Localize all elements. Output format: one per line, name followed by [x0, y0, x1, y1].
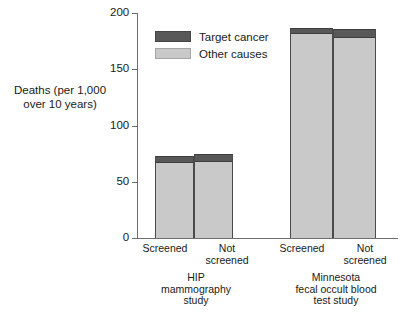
bar-minnesota-not-screened[interactable] — [333, 29, 376, 238]
x-label-hip-screened: Screened — [131, 243, 199, 255]
legend-item-other-causes[interactable]: Other causes — [155, 46, 269, 61]
x-label-minnesota-not-screened: Not screened — [334, 243, 396, 266]
y-tick-label-0: 0 — [69, 232, 129, 243]
bar-segment-other-causes — [156, 163, 193, 238]
bar-minnesota-screened[interactable] — [290, 28, 333, 238]
x-label-minnesota-screened: Screened — [268, 243, 336, 255]
legend-swatch-other-causes-icon — [155, 48, 191, 59]
y-tick-label-200: 200 — [69, 7, 129, 18]
y-tick-label-100: 100 — [69, 120, 129, 131]
y-axis-title: Deaths (per 1,000 over 10 years) — [5, 83, 115, 111]
legend-label-target-cancer: Target cancer — [199, 31, 269, 43]
legend-swatch-target-cancer-icon — [155, 31, 191, 42]
bar-segment-target-cancer — [195, 154, 232, 162]
bar-hip-screened[interactable] — [155, 156, 194, 238]
y-axis-title-line-2: over 10 years) — [5, 97, 115, 111]
bar-hip-not-screened[interactable] — [194, 154, 233, 238]
bar-segment-other-causes — [291, 34, 332, 238]
bar-segment-other-causes — [334, 38, 375, 238]
x-label-hip-not-screened: Not screened — [196, 243, 258, 266]
bar-segment-target-cancer — [156, 156, 193, 163]
bar-segment-target-cancer — [334, 29, 375, 38]
bar-segment-other-causes — [195, 162, 232, 239]
legend-label-other-causes: Other causes — [199, 48, 267, 60]
y-axis-title-line-1: Deaths (per 1,000 — [5, 83, 115, 97]
legend: Target cancer Other causes — [155, 29, 269, 63]
plot-area: Target cancer Other causes — [137, 13, 398, 238]
group-caption-hip-study: HIP mammography study — [137, 272, 255, 307]
x-axis-line — [137, 238, 398, 239]
chart-container: Deaths (per 1,000 over 10 years) 200 150… — [0, 0, 417, 319]
group-caption-minnesota-study: Minnesota fecal occult blood test study — [272, 272, 400, 307]
y-tick-label-150: 150 — [69, 63, 129, 74]
y-tick-label-50: 50 — [69, 176, 129, 187]
bar-segment-target-cancer — [291, 28, 332, 35]
legend-item-target-cancer[interactable]: Target cancer — [155, 29, 269, 44]
